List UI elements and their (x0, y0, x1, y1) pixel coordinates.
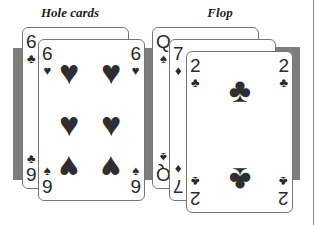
card-rank: 6 (42, 44, 53, 63)
flop-card-3: 2 ♣ 2 ♣ 2 ♣ 2 ♣ ♣ ♣ (186, 51, 293, 213)
card-rank: 9 (130, 177, 141, 196)
card-index-bottom: ♣ 9 (26, 151, 37, 184)
club-pip-icon: ♣ (229, 163, 251, 197)
heart-pip-icon: ♥ (101, 107, 121, 141)
heart-pip-icon: ♥ (101, 151, 121, 185)
club-icon: ♣ (279, 175, 288, 188)
spade-icon: ♠ (160, 151, 167, 164)
card-index-top-right: 6 ♥ (130, 44, 141, 77)
card-rank: 2 (190, 56, 201, 75)
card-index-top: 6 ♣ (26, 32, 37, 65)
card-index-bottom: 2 ♣ (190, 175, 201, 208)
card-index-bottom-right: 2 ♣ (278, 175, 289, 208)
club-icon: ♣ (279, 76, 288, 89)
spade-icon: ♠ (160, 52, 167, 65)
card-index-top: 2 ♣ (190, 56, 201, 89)
card-rank: 9 (42, 177, 53, 196)
hole-cards-label: Hole cards (20, 5, 120, 21)
card-rank: 7 (173, 177, 184, 196)
card-index-top: 7 ♦ (173, 44, 184, 77)
card-index-bottom-right: ♠ 9 (130, 163, 141, 196)
heart-pip-icon: ♥ (101, 55, 121, 89)
heart-pip-icon: ♥ (59, 107, 79, 141)
flop-label: Flop (170, 5, 270, 21)
diamond-icon: ♦ (175, 64, 182, 77)
heart-icon: ♥ (43, 64, 51, 77)
card-rank: 2 (190, 189, 201, 208)
hole-card-2: 6 ♥ 6 ♥ ♠ 9 ♠ 9 ♥ ♥ ♥ ♥ ♥ ♥ (38, 39, 145, 201)
heart-pip-icon: ♥ (59, 55, 79, 89)
card-rank: 2 (278, 56, 289, 75)
card-rank: 6 (130, 44, 141, 63)
club-pip-icon: ♣ (229, 73, 251, 107)
club-icon: ♣ (191, 76, 200, 89)
club-icon: ♣ (27, 52, 36, 65)
card-index-top: 6 ♥ (42, 44, 53, 77)
card-rank: 9 (26, 165, 37, 184)
heart-pip-icon: ♥ (59, 151, 79, 185)
card-rank: 6 (26, 32, 37, 51)
card-index-bottom: ♠ 9 (42, 163, 53, 196)
vertical-divider (313, 0, 314, 225)
heart-icon: ♥ (132, 64, 140, 77)
card-index-top-right: 2 ♣ (278, 56, 289, 89)
club-icon: ♣ (191, 175, 200, 188)
card-index-bottom: 7 ♦ (173, 163, 184, 196)
card-rank: 7 (173, 44, 184, 63)
diamond-icon: ♦ (175, 163, 182, 176)
card-rank: 2 (278, 189, 289, 208)
